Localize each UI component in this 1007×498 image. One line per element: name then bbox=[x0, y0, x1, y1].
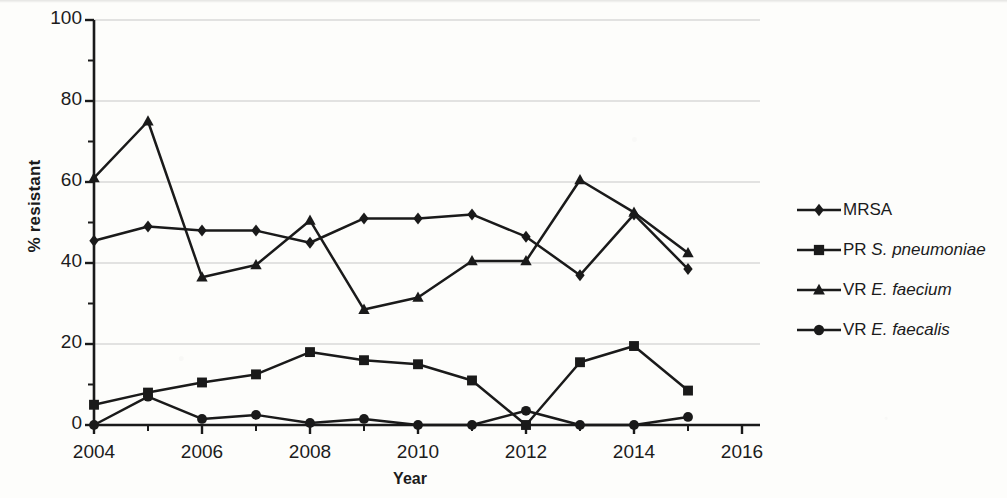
data-point bbox=[683, 412, 693, 422]
chart-legend: MRSAPR S. pneumoniaeVR E. faeciumVR E. f… bbox=[795, 190, 1005, 350]
data-point bbox=[304, 214, 315, 224]
diamond-marker-icon bbox=[795, 201, 843, 219]
data-point bbox=[89, 400, 99, 410]
x-tick-label: 2006 bbox=[162, 441, 242, 463]
legend-label: VR E. faecalis bbox=[843, 320, 950, 340]
x-axis-title: Year bbox=[330, 470, 490, 488]
legend-label: MRSA bbox=[843, 200, 892, 220]
data-point bbox=[413, 420, 423, 430]
data-point bbox=[143, 392, 153, 402]
series-line bbox=[94, 397, 688, 425]
data-point bbox=[305, 347, 315, 357]
y-tick-label: 60 bbox=[26, 169, 82, 191]
triangle-marker-icon bbox=[795, 281, 843, 299]
data-point bbox=[521, 231, 530, 243]
data-point bbox=[89, 420, 99, 430]
series-line bbox=[94, 121, 688, 309]
data-point bbox=[359, 355, 369, 365]
square-marker-icon bbox=[795, 241, 843, 259]
data-point bbox=[412, 291, 423, 301]
legend-label: PR S. pneumoniae bbox=[843, 240, 986, 260]
series-line bbox=[94, 346, 688, 425]
data-point bbox=[683, 386, 693, 396]
data-point bbox=[575, 357, 585, 367]
data-point bbox=[359, 212, 368, 224]
data-point bbox=[628, 206, 639, 216]
data-point bbox=[305, 237, 314, 249]
x-tick-label: 2004 bbox=[54, 441, 134, 463]
legend-item: VR E. faecalis bbox=[795, 310, 1005, 350]
y-tick-label: 40 bbox=[26, 250, 82, 272]
series-diamond bbox=[89, 208, 692, 281]
x-tick-label: 2010 bbox=[378, 441, 458, 463]
y-tick-label: 80 bbox=[26, 88, 82, 110]
data-point bbox=[521, 420, 531, 430]
x-tick-label: 2008 bbox=[270, 441, 350, 463]
legend-marker bbox=[814, 325, 824, 335]
y-tick-label: 20 bbox=[26, 331, 82, 353]
data-point bbox=[413, 212, 422, 224]
y-tick-label: 0 bbox=[26, 412, 82, 434]
y-tick-label: 100 bbox=[26, 7, 82, 29]
legend-item: PR S. pneumoniae bbox=[795, 230, 1005, 270]
x-tick-label: 2016 bbox=[702, 441, 782, 463]
data-point bbox=[305, 418, 315, 428]
data-point bbox=[251, 225, 260, 237]
data-point bbox=[629, 341, 639, 351]
data-point bbox=[413, 359, 423, 369]
legend-label: VR E. faecium bbox=[843, 280, 952, 300]
data-point bbox=[89, 235, 98, 247]
resistance-trend-chart: % resistant Year 020406080100 2004200620… bbox=[0, 0, 1007, 498]
data-point bbox=[197, 414, 207, 424]
data-point bbox=[629, 420, 639, 430]
data-point bbox=[521, 406, 531, 416]
data-point bbox=[467, 208, 476, 220]
data-point bbox=[142, 115, 153, 125]
legend-marker bbox=[814, 245, 824, 255]
data-point bbox=[251, 369, 261, 379]
series-triangle bbox=[88, 115, 693, 314]
series-square bbox=[89, 341, 693, 430]
data-point bbox=[575, 420, 585, 430]
data-point bbox=[359, 414, 369, 424]
scan-edge-shadow bbox=[0, 0, 1007, 3]
x-tick-label: 2014 bbox=[594, 441, 674, 463]
legend-item: MRSA bbox=[795, 190, 1005, 230]
x-tick-label: 2012 bbox=[486, 441, 566, 463]
data-point bbox=[574, 174, 585, 184]
circle-marker-icon bbox=[795, 321, 843, 339]
legend-item: VR E. faecium bbox=[795, 270, 1005, 310]
data-point bbox=[197, 378, 207, 388]
data-point bbox=[143, 221, 152, 233]
data-point bbox=[197, 225, 206, 237]
legend-marker bbox=[814, 204, 824, 216]
data-point bbox=[467, 420, 477, 430]
data-point bbox=[251, 410, 261, 420]
data-point bbox=[467, 376, 477, 386]
